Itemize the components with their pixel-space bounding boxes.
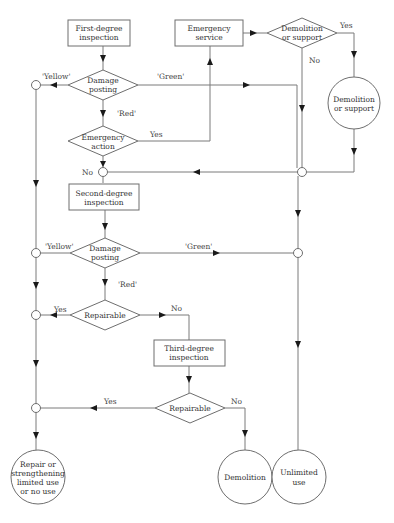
terminal-repair-or-strengthening: Repair or strengthening limited use or n…	[11, 450, 65, 504]
edge-label-no: No	[309, 56, 321, 65]
terminal-label: Repair or	[20, 460, 56, 469]
terminal-label: or support	[334, 104, 374, 113]
box-label: inspection	[84, 198, 123, 207]
box-third-degree-inspection: Third-degree inspection	[154, 340, 225, 366]
decision-label: Damage	[89, 244, 121, 253]
junction-yellow-1	[32, 81, 41, 90]
decision-repairable-2: Repairable	[155, 393, 225, 423]
terminal-label: Unlimited	[280, 468, 318, 477]
terminal-label: strengthening	[11, 469, 65, 478]
box-label: Second-degree	[76, 189, 134, 198]
edge-label-green: 'Green'	[185, 242, 212, 251]
flowchart: First-degree inspection Emergency servic…	[0, 0, 394, 523]
box-second-degree-inspection: Second-degree inspection	[69, 184, 139, 210]
decision-damage-posting-1: Damage posting	[68, 70, 138, 100]
decision-label: action	[91, 142, 115, 151]
terminal-demolition-or-support: Demolition or support	[328, 77, 380, 129]
decision-label: Damage	[87, 76, 119, 85]
decision-demolition-or-support: Demolition or support	[267, 18, 337, 48]
decision-label: Demolition	[281, 24, 323, 33]
edge-label-yellow: 'Yellow'	[45, 242, 74, 251]
edge-label-red: 'Red'	[117, 109, 136, 118]
edge-label-yes: Yes	[53, 305, 67, 314]
edge-label-no: No	[231, 397, 243, 406]
edge-label-yes: Yes	[103, 397, 117, 406]
terminal-unlimited-use: Unlimited use	[272, 450, 326, 504]
junction-yes-repair-1	[32, 311, 41, 320]
box-first-degree-inspection: First-degree inspection	[68, 20, 130, 46]
terminal-label: Demolition	[333, 95, 375, 104]
junction-yellow-2	[32, 249, 41, 258]
terminal-demolition: Demolition	[218, 450, 272, 504]
junction-right-1	[298, 168, 307, 177]
edge-label-yellow: 'Yellow'	[42, 72, 71, 81]
box-emergency-service: Emergency service	[175, 20, 243, 46]
terminal-label: limited use	[17, 478, 60, 487]
junction-green-2	[294, 249, 303, 258]
decision-label: posting	[89, 85, 117, 94]
edge-label-green: 'Green'	[157, 72, 184, 81]
box-label: inspection	[169, 353, 208, 362]
box-label: First-degree	[75, 24, 123, 33]
junction-no-emergency	[99, 168, 108, 177]
box-label: Third-degree	[164, 344, 214, 353]
edge-label-no: No	[82, 168, 94, 177]
edge-label-red: 'Red'	[118, 280, 137, 289]
decision-label: Repairable	[169, 404, 211, 413]
edge-label-yes: Yes	[149, 130, 163, 139]
edge-label-yes: Yes	[339, 21, 353, 30]
terminal-label: or no use	[20, 487, 56, 496]
junction-yes-repair-2	[32, 404, 41, 413]
decision-label: posting	[91, 253, 119, 262]
terminal-label: use	[292, 478, 306, 487]
decision-emergency-action: Emergency action	[68, 126, 138, 156]
decision-damage-posting-2: Damage posting	[70, 238, 140, 268]
box-label: service	[195, 33, 223, 42]
box-label: Emergency	[187, 24, 231, 33]
decision-label: Repairable	[84, 311, 126, 320]
decision-repairable-1: Repairable	[70, 300, 140, 330]
decision-label: Emergency	[81, 133, 125, 142]
box-label: inspection	[79, 33, 118, 42]
decision-label: or support	[282, 33, 322, 42]
edge-label-no: No	[171, 304, 183, 313]
terminal-label: Demolition	[224, 473, 266, 482]
